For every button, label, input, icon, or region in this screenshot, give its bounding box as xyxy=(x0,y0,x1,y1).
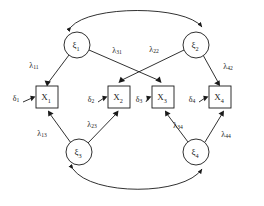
sem-path-diagram: ξ1 ξ2 ξ3 ξ4 X1 X2 X3 X4 δ1 δ2 δ3 δ4 xyxy=(0,0,264,206)
loading-arrow-xi2-x2 xyxy=(122,50,184,80)
correlation-arc-xi3-xi4 xyxy=(73,169,202,189)
diagram-canvas: ξ1 ξ2 ξ3 ξ4 X1 X2 X3 X4 δ1 δ2 δ3 δ4 xyxy=(0,0,264,206)
error-label-d1: δ1 xyxy=(13,94,20,104)
loading-label-l23: λ23 xyxy=(87,120,97,130)
error-arrow-d1-x1 xyxy=(23,98,32,102)
observed-nodes: X1 X2 X3 X4 xyxy=(36,86,231,108)
loading-arrow-xi4-x4 xyxy=(205,114,222,142)
loading-label-l42: λ42 xyxy=(223,62,233,72)
error-arrowhead-d1-x1 xyxy=(30,96,35,101)
loading-label-l13: λ13 xyxy=(37,129,47,139)
loading-label-l11: λ11 xyxy=(29,61,38,71)
loading-label-l22: λ22 xyxy=(149,45,159,55)
loading-arrow-xi1-x3 xyxy=(89,50,158,80)
loading-arrow-xi3-x1 xyxy=(50,114,71,143)
loading-arrowhead-xi2-x2 xyxy=(119,77,126,83)
loading-label-l34: λ34 xyxy=(173,121,183,131)
loading-labels: λ11 λ31 λ22 λ42 λ13 λ23 λ34 λ44 xyxy=(29,45,233,140)
error-arrowhead-d4-x4 xyxy=(203,96,208,101)
loading-arrows xyxy=(45,50,224,143)
error-arrowhead-d2-x2 xyxy=(102,96,107,101)
error-label-d4: δ4 xyxy=(189,95,196,105)
loading-arrow-xi1-x1 xyxy=(48,55,69,83)
correlation-arc-xi1-xi2 xyxy=(71,11,202,28)
loading-arrow-xi2-x4 xyxy=(203,55,218,82)
loading-label-l31: λ31 xyxy=(112,46,122,56)
loading-arrowhead-xi3-x2 xyxy=(113,111,119,117)
error-label-d3: δ3 xyxy=(136,95,143,105)
error-label-d2: δ2 xyxy=(88,95,95,105)
loading-label-l44: λ44 xyxy=(221,130,231,140)
